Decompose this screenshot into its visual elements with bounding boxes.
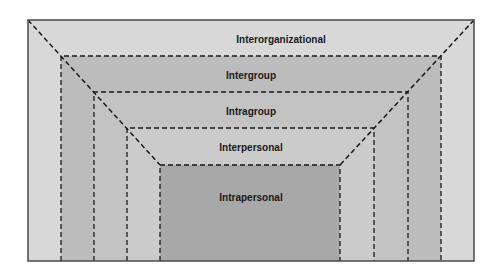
band-intrapersonal: [160, 165, 340, 261]
label-intergroup: Intergroup: [226, 70, 276, 81]
label-intrapersonal: Intrapersonal: [219, 192, 283, 203]
conflict-levels-diagram: Interorganizational Intergroup Intragrou…: [0, 0, 499, 274]
label-intragroup: Intragroup: [226, 106, 276, 117]
label-interpersonal: Interpersonal: [219, 142, 283, 153]
label-interorganizational: Interorganizational: [236, 34, 326, 45]
